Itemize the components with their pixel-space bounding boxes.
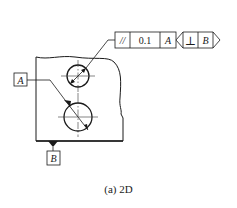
fcf-leader bbox=[70, 40, 115, 84]
perpendicularity-icon: ⊥ bbox=[185, 34, 196, 48]
datum-ref-a: A bbox=[164, 35, 172, 46]
feature-control-frame-perpendicularity: ⊥ B bbox=[176, 32, 220, 48]
tolerance-value: 0.1 bbox=[139, 35, 152, 46]
datum-ref-b: B bbox=[202, 35, 208, 46]
gdt-drawing: A B // 0.1 A ⊥ B bbox=[0, 0, 237, 208]
datum-b-label: B bbox=[50, 153, 56, 164]
datum-a-label: A bbox=[16, 75, 24, 86]
figure-caption: (a) 2D bbox=[0, 183, 237, 195]
part-outline bbox=[36, 57, 123, 141]
datum-a-box: A bbox=[14, 73, 27, 86]
drawing-svg: A B // 0.1 A ⊥ B bbox=[0, 0, 237, 208]
lower-hole bbox=[58, 93, 98, 137]
datum-b-symbol: B bbox=[47, 141, 60, 165]
feature-control-frame-parallelism: // 0.1 A bbox=[115, 32, 176, 48]
